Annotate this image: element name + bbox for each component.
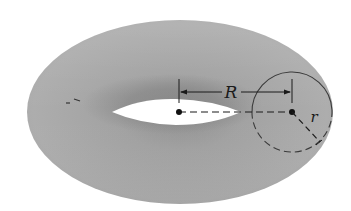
torus-diagram: R r	[0, 0, 351, 211]
label-major-radius: R	[224, 82, 238, 102]
label-minor-radius: r	[310, 108, 318, 126]
torus-center-dot	[176, 109, 182, 115]
